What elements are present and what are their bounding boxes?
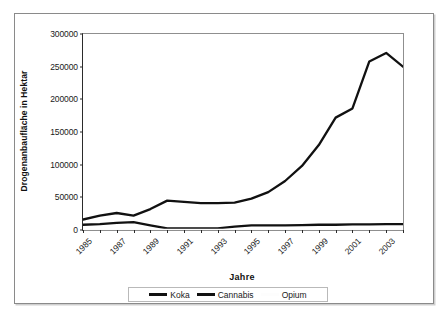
x-axis-tick-mark [336, 230, 337, 233]
x-axis-tick-label: 1987 [107, 236, 127, 256]
line-swatch-cannabis-icon [197, 293, 215, 295]
x-axis-tick-mark [403, 230, 404, 233]
x-axis-tick-mark [167, 230, 168, 233]
y-axis-tick-mark [80, 66, 83, 67]
x-axis-tick-mark [134, 230, 135, 233]
x-axis-tick-mark [352, 230, 353, 233]
x-axis-tick-mark [100, 230, 101, 233]
x-axis-tick-mark [201, 230, 202, 233]
legend-label: Opium [282, 290, 307, 300]
y-axis-tick-label: 100000 [50, 160, 83, 170]
y-axis-tick-mark [80, 197, 83, 198]
y-axis-tick-mark [80, 132, 83, 133]
x-axis-tick-mark [117, 230, 118, 233]
x-axis-tick-label: 1995 [242, 236, 262, 256]
y-axis-tick-label: 200000 [50, 94, 83, 104]
x-axis-tick-label: 2001 [343, 236, 363, 256]
x-axis-tick-label: 1991 [175, 236, 195, 256]
x-axis-tick-mark [386, 230, 387, 233]
x-axis-tick-mark [251, 230, 252, 233]
x-axis-tick-label: 1985 [74, 236, 94, 256]
x-axis-tick-mark [218, 230, 219, 233]
x-axis-tick-mark [302, 230, 303, 233]
x-axis-tick-label: 1999 [309, 236, 329, 256]
x-axis-tick-mark [235, 230, 236, 233]
y-axis-tick-label: 300000 [50, 29, 83, 39]
x-axis-title: Jahre [82, 272, 402, 282]
y-axis-title-text: Drogenanbaufläche in Hektar [19, 71, 29, 192]
legend-label: Cannabis [218, 290, 254, 300]
plot-area: 0500001000001500002000002500003000001985… [82, 33, 404, 231]
x-axis-tick-mark [184, 230, 185, 233]
chart-legend: KokaCannabisOpium [128, 287, 328, 302]
line-swatch-koka-icon [149, 293, 167, 295]
x-axis-tick-label: 2003 [377, 236, 397, 256]
y-axis-title: Drogenanbaufläche in Hektar [17, 33, 31, 229]
x-axis-tick-mark [285, 230, 286, 233]
y-axis-tick-label: 50000 [55, 192, 83, 202]
legend-item-opium[interactable]: Opium [261, 290, 307, 300]
legend-label: Koka [170, 290, 189, 300]
x-axis-tick-mark [83, 230, 84, 233]
legend-item-cannabis[interactable]: Cannabis [197, 290, 254, 300]
legend-item-koka[interactable]: Koka [149, 290, 189, 300]
series-canvas [83, 34, 403, 230]
x-axis-tick-mark [150, 230, 151, 233]
x-axis-tick-mark [369, 230, 370, 233]
x-axis-tick-mark [319, 230, 320, 233]
x-axis-tick-label: 1989 [141, 236, 161, 256]
series-line-cannabis [83, 222, 403, 228]
x-axis-tick-label: 1997 [276, 236, 296, 256]
y-axis-tick-mark [80, 99, 83, 100]
chart-figure: Drogenanbaufläche in Hektar 050000100000… [14, 13, 434, 304]
y-axis-tick-label: 250000 [50, 62, 83, 72]
y-axis-tick-label: 150000 [50, 127, 83, 137]
y-axis-tick-mark [80, 34, 83, 35]
y-axis-tick-mark [80, 164, 83, 165]
x-axis-tick-mark [268, 230, 269, 233]
series-line-koka [83, 53, 403, 220]
line-swatch-opium-icon [261, 293, 279, 295]
x-axis-tick-label: 1993 [208, 236, 228, 256]
